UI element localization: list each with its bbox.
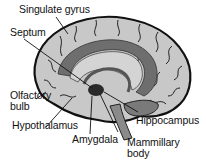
label-hypothalamus: Hypothalamus <box>12 120 78 131</box>
limbic-system-diagram: Singulate gyrus Septum Olfactory bulb Hy… <box>0 0 206 165</box>
label-mammillary-body: Mammillary body <box>127 137 180 159</box>
label-hippocampus: Hippocampus <box>136 115 199 126</box>
label-cingulate-gyrus: Singulate gyrus <box>19 4 90 15</box>
label-septum: Septum <box>10 27 46 38</box>
label-amygdala: Amygdala <box>72 134 118 145</box>
label-olfactory-bulb: Olfactory bulb <box>10 90 51 112</box>
